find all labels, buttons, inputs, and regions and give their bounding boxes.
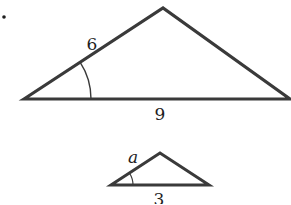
small-triangle-base-label: 3: [154, 191, 165, 205]
large-triangle-base-label: 9: [155, 106, 166, 123]
similar-triangles-figure: 6 9 a 3: [0, 0, 291, 204]
large-triangle-side-label: 6: [87, 36, 98, 53]
small-triangle-angle-arc: [129, 173, 133, 185]
large-triangle: [24, 8, 290, 99]
problem-number-dot: [2, 15, 6, 19]
triangles-drawing: [0, 0, 291, 204]
large-triangle-angle-arc: [80, 62, 91, 99]
small-triangle: [111, 153, 209, 185]
small-triangle-side-label: a: [128, 149, 138, 166]
